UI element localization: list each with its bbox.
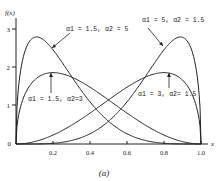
y-axis-label: f(x) <box>5 9 15 17</box>
arrow-head-3-icon <box>49 73 53 77</box>
figure-caption: (a) <box>99 168 110 178</box>
annotation-a1-1.5-a2-5: α1 = 1.5, α2 = 5 <box>66 26 129 33</box>
x-tick-label-0.8: 0.8 <box>160 149 168 156</box>
y-tick-label-0: 0 <box>8 140 12 148</box>
curve-series-3 <box>16 73 201 144</box>
x-axis-label: x <box>210 140 214 147</box>
curve-series-4 <box>16 73 201 144</box>
annotation-a1-5-a2-1.5: α1 = 5, α2 = 1.5 <box>142 17 205 24</box>
y-tick-label-3: 3 <box>7 26 11 34</box>
x-tick-label-1.0: 1.0 <box>197 149 205 156</box>
x-tick-label-0.2: 0.2 <box>49 149 57 156</box>
arrow-head-2-icon <box>159 42 163 46</box>
y-tick-label-2: 2 <box>7 64 11 72</box>
annotation-a1-1.5-a2-3: α1 = 1.5, α2=3 <box>28 96 83 103</box>
x-tick-label-0.4: 0.4 <box>86 149 95 156</box>
arrow-head-1-icon <box>52 44 56 48</box>
x-tick-label-0.6: 0.6 <box>123 149 132 156</box>
y-tick-label-1: 1 <box>7 102 11 110</box>
beta-density-chart: 3 2 1 0 f(x) 0.2 0.4 0.6 0.8 1.0 x α1 = … <box>0 0 218 181</box>
annotation-a1-3-a2-1.5: α1 = 3, α2= 1.5 <box>138 91 197 98</box>
